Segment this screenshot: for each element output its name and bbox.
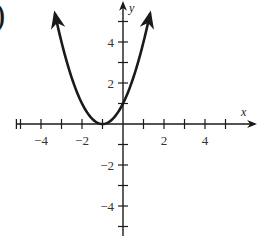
x-tick-label: −2 [75,133,89,148]
axes [16,3,255,236]
x-axis-label: x [240,105,247,119]
parabola-curve [55,14,150,124]
y-tick-label: −4 [100,199,114,214]
y-axis-label: y [128,1,135,15]
parabola-path [55,14,150,124]
tick-labels: xy−4−22442−2−4 [34,1,247,214]
y-tick-label: −2 [100,158,114,173]
y-tick-label: 2 [108,76,115,91]
x-tick-label: 4 [202,133,209,148]
x-tick-label: −4 [34,133,48,148]
y-tick-label: 4 [108,35,115,50]
x-tick-label: 2 [161,133,168,148]
graph: xy−4−22442−2−4 [0,0,263,236]
